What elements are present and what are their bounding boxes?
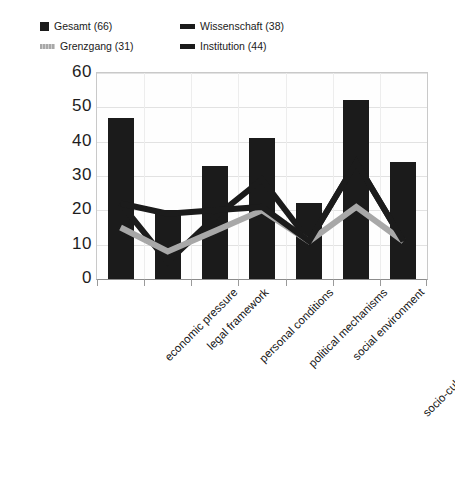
x-axis-tick-mark [426,279,427,286]
plot-area [96,72,428,280]
x-axis-tick-mark [286,279,287,286]
x-axis-tick-mark [191,279,192,286]
x-axis-tick-mark [238,279,239,286]
y-axis-tick-label: 20 [52,199,92,219]
y-axis-tick-label: 0 [52,268,92,288]
y-axis-tick-labels: 6050403020100 [52,62,92,284]
y-axis-tick-label: 60 [52,62,92,82]
x-axis-tick-label: legal framework [204,286,270,352]
x-axis-tick-mark [144,279,145,286]
line-series [121,162,404,241]
chart-figure: Gesamt (66) Wissenschaft (38) Grenzgang … [0,0,455,503]
x-axis-tick-label: personal conditions [257,286,336,365]
x-axis-tick-label: socio-cultural values and practices [421,286,455,419]
x-axis-tick-mark [380,279,381,286]
y-axis-tick-label: 40 [52,131,92,151]
y-axis-tick-label: 10 [52,234,92,254]
series-lines [97,73,427,279]
plot-wrapper: 6050403020100 economic pressurelegal fra… [0,0,455,503]
y-axis-tick-label: 30 [52,165,92,185]
y-axis-tick-label: 50 [52,96,92,116]
x-axis-tick-label: political mechanisms [306,286,390,370]
x-axis-tick-mark [333,279,334,286]
x-axis-tick-mark [97,279,98,286]
x-axis-tick-label: economic pressure [162,286,239,363]
x-axis-tick-label: social environment [350,286,426,362]
